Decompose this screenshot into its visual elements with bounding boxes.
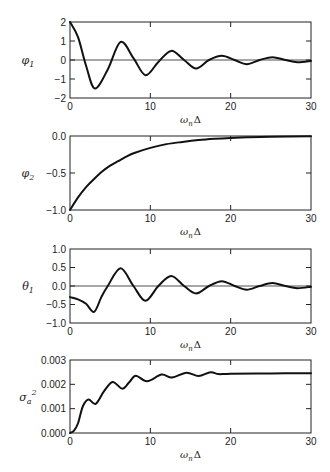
data-curve — [70, 136, 311, 210]
y-tick-label: −2 — [55, 93, 67, 104]
x-tick-label: 20 — [225, 213, 237, 224]
y-tick-label: 0.000 — [41, 428, 66, 439]
y-tick-label: 0.002 — [41, 379, 66, 390]
x-tick-label: 0 — [67, 326, 73, 337]
y-tick-label: 1.0 — [52, 244, 66, 255]
x-tick-label: 10 — [145, 213, 157, 224]
y-tick-label: 0.001 — [41, 403, 66, 414]
data-curve — [70, 22, 311, 89]
x-tick-label: 0 — [67, 213, 73, 224]
x-tick-label: 30 — [305, 101, 317, 112]
x-tick-label: 30 — [305, 326, 317, 337]
x-tick-label: 20 — [225, 326, 237, 337]
x-tick-label: 30 — [305, 436, 317, 447]
x-tick-label: 10 — [145, 101, 157, 112]
y-tick-label: 0.0 — [52, 131, 66, 142]
y-tick-label: −1.0 — [46, 318, 66, 329]
panel-sigma-a-squared: 01020300.0000.0010.0020.003σa2ωnΔ — [19, 355, 317, 464]
y-tick-label: −0.5 — [46, 168, 66, 179]
y-tick-label: 1 — [60, 36, 66, 47]
y-tick-label: −1.0 — [46, 205, 66, 216]
y-axis-label: φ1 — [22, 54, 35, 69]
x-axis-label: ωnΔ — [180, 226, 201, 240]
data-curve — [70, 372, 311, 433]
y-tick-label: 0 — [60, 55, 66, 66]
x-tick-label: 10 — [145, 326, 157, 337]
x-tick-label: 30 — [305, 213, 317, 224]
x-tick-label: 20 — [225, 436, 237, 447]
panel-theta1: 0102030−1.0−0.50.00.51.0θ1ωnΔ — [22, 244, 317, 354]
y-tick-label: −1 — [55, 74, 67, 85]
y-tick-label: 0.0 — [52, 281, 66, 292]
x-axis-label: ωnΔ — [180, 114, 201, 128]
y-tick-label: 0.003 — [41, 355, 66, 366]
x-tick-label: 10 — [145, 436, 157, 447]
x-tick-label: 0 — [67, 436, 73, 447]
figure: 0102030−2−1012φ1ωnΔ 0102030−1.0−0.50.0φ2… — [0, 0, 330, 472]
y-axis-label: σa2 — [19, 388, 36, 406]
data-curve — [70, 268, 311, 312]
x-tick-label: 0 — [67, 101, 73, 112]
x-tick-label: 20 — [225, 101, 237, 112]
y-axis-label: φ2 — [22, 167, 35, 182]
panel-phi2: 0102030−1.0−0.50.0φ2ωnΔ — [22, 131, 317, 241]
y-tick-label: 0.5 — [52, 262, 66, 273]
x-axis-label: ωnΔ — [180, 339, 201, 353]
y-axis-label: θ1 — [22, 280, 34, 295]
plot-frame — [70, 360, 311, 433]
panel-phi1: 0102030−2−1012φ1ωnΔ — [22, 17, 317, 129]
x-axis-label: ωnΔ — [180, 449, 201, 463]
y-tick-label: 2 — [60, 17, 66, 28]
plot-frame — [70, 136, 311, 210]
y-tick-label: −0.5 — [46, 299, 66, 310]
